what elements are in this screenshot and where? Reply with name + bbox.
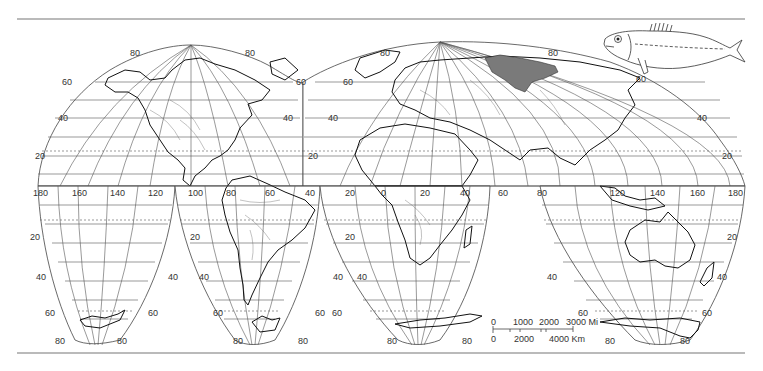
svg-text:20: 20 — [420, 188, 430, 198]
svg-text:80: 80 — [226, 188, 236, 198]
svg-text:60: 60 — [62, 77, 72, 87]
svg-text:80: 80 — [298, 336, 308, 346]
svg-text:60: 60 — [332, 308, 342, 318]
svg-text:40: 40 — [58, 113, 68, 123]
svg-text:60: 60 — [148, 308, 158, 318]
svg-text:80: 80 — [548, 48, 558, 58]
svg-text:40: 40 — [36, 272, 46, 282]
svg-text:80: 80 — [462, 336, 472, 346]
svg-text:20: 20 — [35, 151, 45, 161]
svg-text:80: 80 — [380, 48, 390, 58]
svg-text:80: 80 — [233, 336, 243, 346]
svg-text:80: 80 — [55, 336, 65, 346]
svg-text:0: 0 — [491, 334, 496, 344]
fish-illustration — [604, 23, 745, 74]
svg-text:60: 60 — [498, 188, 508, 198]
svg-text:60: 60 — [702, 308, 712, 318]
svg-text:80: 80 — [537, 188, 547, 198]
svg-text:20: 20 — [30, 232, 40, 242]
svg-text:4000 Km: 4000 Km — [549, 334, 585, 344]
svg-text:140: 140 — [650, 188, 665, 198]
lobe-south-america — [175, 176, 320, 345]
svg-text:60: 60 — [315, 308, 325, 318]
svg-text:80: 80 — [680, 336, 690, 346]
svg-text:80: 80 — [245, 48, 255, 58]
svg-text:40: 40 — [199, 272, 209, 282]
svg-text:40: 40 — [283, 113, 293, 123]
svg-text:180: 180 — [728, 188, 743, 198]
world-map: 80 80 60 60 40 40 20 80 80 60 60 40 40 2… — [0, 0, 763, 371]
svg-text:20: 20 — [308, 151, 318, 161]
svg-text:20: 20 — [345, 188, 355, 198]
svg-text:80: 80 — [605, 336, 615, 346]
svg-text:20: 20 — [190, 232, 200, 242]
svg-text:40: 40 — [305, 188, 315, 198]
svg-text:80: 80 — [130, 48, 140, 58]
svg-text:2000: 2000 — [539, 317, 559, 327]
svg-text:160: 160 — [690, 188, 705, 198]
svg-text:100: 100 — [188, 188, 203, 198]
svg-text:120: 120 — [148, 188, 163, 198]
svg-text:60: 60 — [45, 308, 55, 318]
svg-text:40: 40 — [333, 272, 343, 282]
fish-body — [604, 31, 745, 69]
svg-text:60: 60 — [636, 74, 646, 84]
svg-text:180: 180 — [33, 188, 48, 198]
scale-bar: 0 1000 2000 3000 Mi 0 2000 4000 Km — [491, 317, 598, 344]
svg-text:40: 40 — [547, 272, 557, 282]
svg-text:40: 40 — [357, 272, 367, 282]
svg-text:40: 40 — [460, 188, 470, 198]
svg-text:20: 20 — [345, 232, 355, 242]
svg-text:3000 Mi: 3000 Mi — [566, 317, 598, 327]
svg-text:60: 60 — [265, 188, 275, 198]
svg-text:80: 80 — [117, 336, 127, 346]
lobe-south-pacific-west — [38, 186, 175, 345]
svg-text:60: 60 — [213, 308, 223, 318]
svg-text:40: 40 — [328, 113, 338, 123]
svg-text:60: 60 — [343, 77, 353, 87]
svg-text:0: 0 — [491, 317, 496, 327]
svg-text:120: 120 — [610, 188, 625, 198]
svg-text:40: 40 — [168, 272, 178, 282]
lobe-north-america — [38, 45, 303, 186]
svg-text:60: 60 — [296, 77, 306, 87]
svg-text:2000: 2000 — [514, 334, 534, 344]
svg-text:40: 40 — [717, 272, 727, 282]
svg-text:20: 20 — [727, 232, 737, 242]
lobe-south-africa — [320, 186, 490, 345]
svg-text:0: 0 — [381, 188, 386, 198]
svg-text:140: 140 — [110, 188, 125, 198]
svg-text:20: 20 — [722, 151, 732, 161]
svg-text:40: 40 — [697, 113, 707, 123]
svg-text:1000: 1000 — [513, 317, 533, 327]
svg-text:80: 80 — [387, 336, 397, 346]
svg-text:160: 160 — [72, 188, 87, 198]
